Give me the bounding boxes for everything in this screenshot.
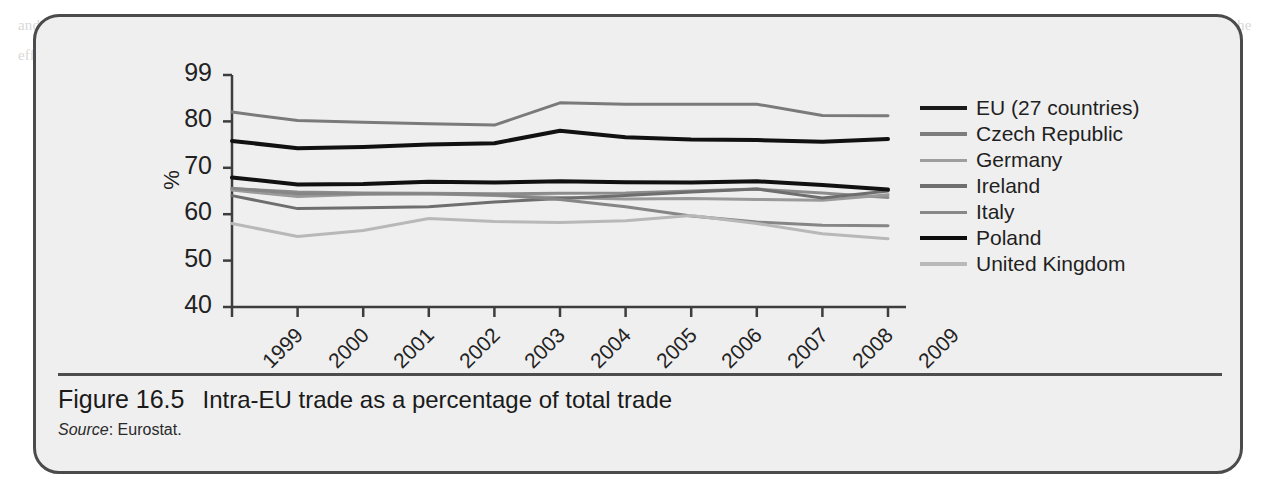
legend-color-swatch [920, 236, 967, 240]
y-axis-tick-label: 70 [158, 151, 212, 180]
figure-number: Figure 16.5 [58, 385, 184, 414]
legend-item-italy: Italy [920, 199, 1220, 225]
legend-item-czech-republic: Czech Republic [920, 121, 1220, 147]
legend-item-eu-27-countries: EU (27 countries) [920, 95, 1220, 121]
y-axis-tick-label: 99 [158, 58, 212, 87]
legend-item-label: Czech Republic [976, 122, 1123, 146]
legend-color-swatch [920, 159, 967, 162]
chart-legend: EU (27 countries)Czech RepublicGermanyIr… [920, 95, 1220, 277]
figure-title: Intra-EU trade as a percentage of total … [202, 386, 672, 414]
legend-item-label: Italy [976, 200, 1015, 224]
y-axis-tick-label: 50 [158, 244, 212, 273]
legend-item-label: Poland [976, 226, 1041, 250]
y-axis-tick-label: 80 [158, 104, 212, 133]
legend-color-swatch [920, 211, 967, 214]
legend-color-swatch [920, 106, 967, 110]
figure-caption: Figure 16.5 Intra-EU trade as a percenta… [58, 385, 672, 414]
legend-color-swatch [920, 262, 967, 266]
figure-source: Source: Eurostat. [58, 421, 182, 439]
caption-divider [58, 373, 1222, 376]
legend-item-label: Germany [976, 148, 1062, 172]
source-word: Source [58, 421, 109, 438]
legend-item-united-kingdom: United Kingdom [920, 251, 1220, 277]
legend-item-ireland: Ireland [920, 173, 1220, 199]
legend-item-germany: Germany [920, 147, 1220, 173]
legend-color-swatch [920, 132, 967, 136]
y-axis-tick-label: 60 [158, 197, 212, 226]
source-text: : Eurostat. [109, 421, 182, 438]
y-axis-tick-label: 40 [158, 290, 212, 319]
legend-color-swatch [920, 184, 967, 188]
figure-panel: % 998070605040 1999200020012002200320042… [33, 14, 1243, 474]
legend-item-label: United Kingdom [976, 252, 1125, 276]
legend-item-label: EU (27 countries) [976, 96, 1139, 120]
legend-item-label: Ireland [976, 174, 1040, 198]
legend-item-poland: Poland [920, 225, 1220, 251]
